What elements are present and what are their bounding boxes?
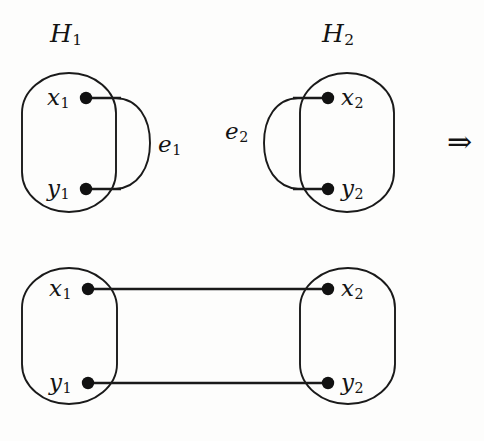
merged-vertex-label-y1: y1 bbox=[49, 371, 72, 395]
merged-graph bbox=[22, 268, 395, 404]
h1-graph-title: H1 bbox=[50, 21, 82, 49]
merged-vertex-y1-dot bbox=[82, 377, 94, 389]
h2-vertex-label-x2: x2 bbox=[341, 86, 364, 110]
graph-diagram-svg bbox=[0, 0, 484, 441]
graph-h1 bbox=[22, 73, 150, 212]
h1-vertex-x1-dot bbox=[80, 92, 92, 104]
merged-vertex-y2-dot bbox=[322, 377, 334, 389]
h2-vertex-label-y2: y2 bbox=[341, 177, 364, 201]
h1-vertex-label-x1: x1 bbox=[47, 86, 70, 110]
implies-arrow-icon: ⇒ bbox=[447, 124, 472, 159]
merged-vertex-label-y2: y2 bbox=[341, 371, 364, 395]
h2-graph-title: H2 bbox=[322, 21, 354, 49]
e1-hyperedge-blob bbox=[86, 98, 150, 189]
h2-vertex-x2-dot bbox=[322, 92, 334, 104]
graph-h2 bbox=[264, 73, 394, 212]
h2-vertex-y2-dot bbox=[322, 183, 334, 195]
merged-vertex-x2-dot bbox=[322, 283, 334, 295]
e2-hyperedge-blob bbox=[264, 98, 328, 189]
figure-canvas: H1 H2 x1 y1 x2 y2 e1 e2 ⇒ x1 y1 x2 y2 bbox=[0, 0, 484, 441]
e1-edge-label: e1 bbox=[158, 133, 181, 157]
h1-vertex-label-y1: y1 bbox=[47, 177, 70, 201]
merged-vertex-label-x1: x1 bbox=[49, 277, 72, 301]
merged-vertex-x1-dot bbox=[82, 283, 94, 295]
h1-vertex-y1-dot bbox=[80, 183, 92, 195]
e2-edge-label: e2 bbox=[225, 120, 248, 144]
merged-vertex-label-x2: x2 bbox=[341, 277, 364, 301]
